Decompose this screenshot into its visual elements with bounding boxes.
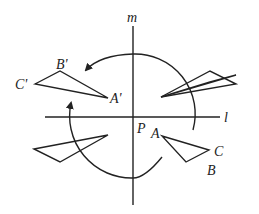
rotation-arc-bottom [70,103,162,178]
label-m: m [127,10,137,25]
triangle-lower-left [34,135,108,162]
label-b: B [207,163,216,178]
label-a: A [150,126,160,141]
triangle-abc [162,136,209,162]
label-c-prime: C' [15,77,28,92]
label-b-prime: B' [56,57,69,72]
diagram-canvas: m l P A B C A' B' C' [0,0,259,214]
label-l: l [224,110,228,125]
rotation-diagram: m l P A B C A' B' C' [0,0,259,214]
label-p: P [136,121,146,136]
triangle-a-prime [35,71,108,98]
label-a-prime: A' [109,91,123,106]
label-c: C [214,144,224,159]
